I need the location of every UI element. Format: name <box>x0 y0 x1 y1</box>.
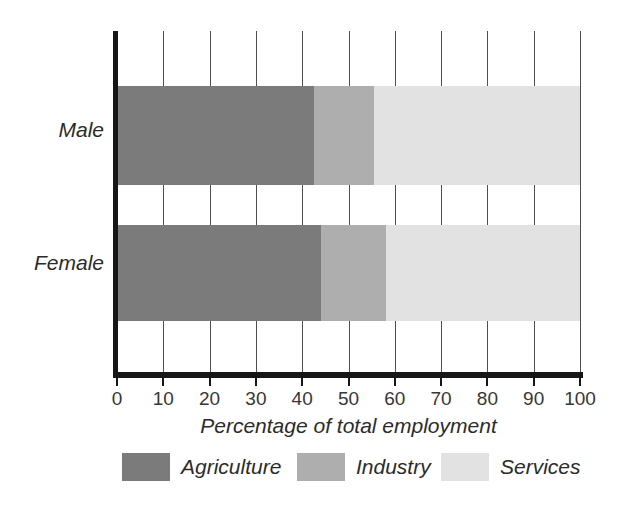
bar-female <box>117 225 580 321</box>
bar-male <box>117 86 580 185</box>
x-tick-label-100: 100 <box>564 388 596 410</box>
x-tick-label-30: 30 <box>245 388 266 410</box>
y-axis-line <box>113 31 118 378</box>
x-tick-label-40: 40 <box>292 388 313 410</box>
x-tick-label-20: 20 <box>199 388 220 410</box>
x-tick-label-0: 0 <box>112 388 123 410</box>
bar-segment-industry-male <box>314 86 374 185</box>
legend-item-services: Services <box>441 453 581 481</box>
legend-item-agriculture: Agriculture <box>122 453 281 481</box>
x-axis-title: Percentage of total employment <box>117 414 580 438</box>
gridline-100 <box>580 31 581 372</box>
x-tick-label-60: 60 <box>384 388 405 410</box>
bar-segment-agriculture-female <box>117 225 321 321</box>
x-axis-tick-labels: 0102030405060708090100 <box>117 388 580 410</box>
legend-swatch-agriculture <box>122 453 170 481</box>
bar-segment-agriculture-male <box>117 86 314 185</box>
x-axis-ticks <box>117 378 580 386</box>
x-tick-0 <box>116 378 118 386</box>
legend-item-industry: Industry <box>297 453 431 481</box>
x-tick-label-10: 10 <box>153 388 174 410</box>
plot-area <box>117 31 580 372</box>
category-label-female: Female <box>18 251 104 275</box>
legend-swatch-services <box>441 453 489 481</box>
x-tick-label-80: 80 <box>477 388 498 410</box>
x-tick-30 <box>255 378 257 386</box>
bar-segment-services-male <box>374 86 580 185</box>
x-tick-60 <box>394 378 396 386</box>
x-tick-50 <box>348 378 350 386</box>
x-tick-label-90: 90 <box>523 388 544 410</box>
x-tick-label-50: 50 <box>338 388 359 410</box>
x-tick-10 <box>162 378 164 386</box>
x-tick-label-70: 70 <box>431 388 452 410</box>
bar-segment-industry-female <box>321 225 386 321</box>
x-tick-70 <box>440 378 442 386</box>
x-tick-100 <box>579 378 581 386</box>
x-tick-20 <box>209 378 211 386</box>
x-tick-80 <box>486 378 488 386</box>
x-tick-90 <box>533 378 535 386</box>
legend-label-industry: Industry <box>356 455 431 479</box>
stacked-bar-chart: 0102030405060708090100 Male Female Perce… <box>0 0 633 513</box>
legend-label-agriculture: Agriculture <box>181 455 281 479</box>
x-axis-line <box>113 372 583 378</box>
x-tick-40 <box>301 378 303 386</box>
bar-segment-services-female <box>386 225 580 321</box>
legend-label-services: Services <box>500 455 581 479</box>
legend-swatch-industry <box>297 453 345 481</box>
category-label-male: Male <box>18 118 104 142</box>
